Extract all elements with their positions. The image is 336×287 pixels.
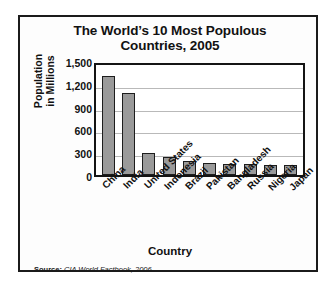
y-axis-tick-label: 0 [48,171,92,183]
chart-title-line-2: Countries, 2005 [30,38,310,53]
chart-title: The World’s 10 Most Populous Countries, … [30,23,310,53]
source-label: Source: [34,265,62,274]
chart-title-line-1: The World’s 10 Most Populous [74,23,267,38]
bar-slot [118,65,138,175]
y-axis-tick-labels: 03006009001,2001,500 [48,57,92,183]
bar-india[interactable] [122,93,135,175]
figure-frame: The World’s 10 Most Populous Countries, … [18,15,318,272]
bar-china[interactable] [102,76,115,175]
y-axis-tick-label: 300 [48,148,92,160]
bar-slot [139,65,159,175]
source-text: CIA World Factbook, 2006. [64,265,154,274]
y-axis-tick-label: 600 [48,125,92,137]
bar-slot [281,65,301,175]
source-note: Source: CIA World Factbook, 2006. [34,265,154,274]
y-axis-tick-label: 900 [48,103,92,115]
y-axis-tick-label: 1,500 [48,57,92,69]
x-axis-tick-labels: ChinaIndiaUnited StatesIndonesiaBrazilPa… [94,179,305,239]
y-axis-tick-label: 1,200 [48,80,92,92]
x-axis-title: Country [80,245,260,257]
y-axis-title-line-1: Population [32,54,44,108]
bar-slot [98,65,118,175]
